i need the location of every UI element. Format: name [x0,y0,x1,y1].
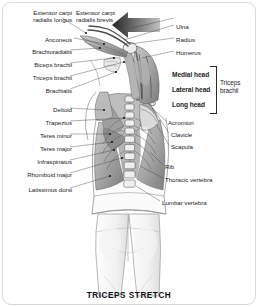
label-infraspinatus: Infraspinatus [6,158,72,165]
label-thoracic-vertebra: Thoracic vertebra [165,176,212,183]
label-radius: Radius [176,36,195,43]
label-humerus: Humerus [176,49,201,56]
label-acromion: Acromion [168,119,194,126]
label-trapezius: Trapezius [6,119,72,126]
label-anconeus: Anconeus [6,36,72,43]
label-teres-major: Teres major [6,145,72,152]
label-teres-minor: Teres minor [6,132,72,139]
label-rhomboid-major: Rhomboid major [2,171,72,178]
label-biceps-brachii: Biceps brachii [6,61,72,68]
label-deltoid: Deltoid [6,106,72,113]
label-clavicle: Clavicle [171,131,192,138]
anatomy-illustration-triceps-stretch: Extensor carpi radialis longus Anconeus … [0,0,258,307]
figure-caption: TRICEPS STRETCH [0,291,258,300]
label-extensor-carpi-radialis-brevis: Extensor carpi radialis brevis [76,9,146,23]
label-brachialis: Brachialis [6,87,72,94]
label-extensor-carpi-radialis-longus: Extensor carpi radialis longus [6,9,72,23]
label-ulna: Ulna [176,23,189,30]
label-rib: Rib [165,163,174,170]
label-lateral-head: Lateral head [172,86,210,93]
label-triceps-brachii-left: Triceps brachii [6,74,72,81]
label-brachioradialis: Brachioradialis [6,48,72,55]
anatomical-drawing [0,0,258,307]
label-medial-head: Medial head [172,71,209,78]
label-scapula: Scapula [171,143,193,150]
label-latissimus-dorsi: Latissimus dorsi [2,186,72,193]
triceps-group-bracket [210,66,217,114]
label-long-head: Long head [172,101,205,108]
label-lumbar-vertebra: Lumbar vertebra [162,199,207,206]
label-triceps-brachii-group: Triceps brachii [220,79,254,94]
